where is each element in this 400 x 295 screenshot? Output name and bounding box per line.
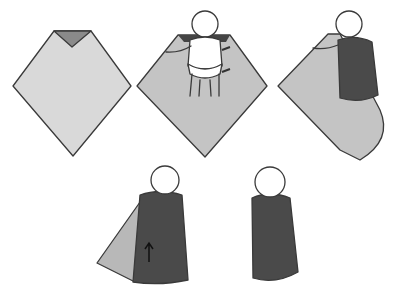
wrapped-body bbox=[133, 192, 188, 284]
step-1-blanket bbox=[13, 31, 131, 156]
step-5-fully-swaddled bbox=[252, 167, 298, 280]
wrapped-blanket bbox=[338, 37, 378, 100]
swaddling-diagram bbox=[0, 0, 400, 295]
baby-head bbox=[192, 11, 218, 37]
step-4-bottom-folded bbox=[97, 166, 188, 284]
baby-body bbox=[188, 37, 222, 69]
baby-head bbox=[336, 11, 362, 37]
step-3-left-side-wrapped bbox=[278, 11, 384, 160]
baby-head bbox=[151, 166, 179, 194]
wrapped-body bbox=[252, 194, 298, 280]
blanket-diamond bbox=[13, 31, 131, 156]
baby-head bbox=[255, 167, 285, 197]
step-2-baby-on-blanket bbox=[137, 11, 267, 157]
